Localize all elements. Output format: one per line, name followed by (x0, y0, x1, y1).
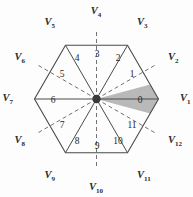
vertex-label-V12: V12 (168, 134, 183, 148)
vertex-label-subscript: 3 (144, 22, 148, 30)
sector-label-7: 7 (60, 120, 65, 130)
vertex-label-V7: V7 (2, 92, 13, 106)
spoke-solid-V11 (97, 99, 128, 153)
spoke-solid-V5 (66, 45, 97, 99)
figure-container: 01234567891011 V1V2V3V4V5V6V7V8V9V10V11V… (0, 0, 193, 197)
center-hub (92, 95, 100, 103)
vertex-label-subscript: 9 (52, 175, 56, 183)
spoke-dashed-V6 (38, 65, 97, 99)
vertex-label-subscript: 11 (144, 175, 151, 183)
sector-label-9: 9 (95, 141, 100, 151)
sector-label-0: 0 (138, 95, 143, 105)
vertex-label-subscript: 2 (175, 57, 179, 65)
sector-label-1: 1 (130, 69, 135, 79)
vertex-label-V9: V9 (44, 169, 55, 183)
vertex-label-V10: V10 (89, 181, 104, 195)
vertex-label-V4: V4 (91, 5, 102, 19)
vertex-label-V3: V3 (137, 16, 148, 30)
spoke-dashed-V8 (38, 99, 97, 133)
vertex-label-V1: V1 (180, 92, 191, 106)
sector-label-5: 5 (60, 69, 65, 79)
vertex-label-V5: V5 (44, 16, 55, 30)
sector-label-11: 11 (127, 120, 136, 130)
sector-label-3: 3 (95, 49, 100, 59)
spoke-solid-V9 (66, 99, 97, 153)
vertex-label-subscript: 12 (175, 140, 183, 148)
spoke-solid-V3 (97, 45, 128, 99)
sector-label-10: 10 (113, 136, 123, 146)
sector-label-8: 8 (75, 136, 80, 146)
hexagon-sector-diagram: 01234567891011 V1V2V3V4V5V6V7V8V9V10V11V… (0, 0, 193, 197)
sector-label-2: 2 (116, 53, 121, 63)
vertex-label-subscript: 6 (22, 57, 26, 65)
center-hub-dot (92, 95, 100, 103)
sector-label-6: 6 (51, 95, 56, 105)
vertex-label-subscript: 7 (10, 98, 14, 106)
vertex-label-subscript: 4 (98, 11, 102, 19)
vertex-label-subscript: 1 (187, 98, 191, 106)
vertex-label-subscript: 5 (52, 22, 56, 30)
vertex-label-subscript: 8 (22, 140, 26, 148)
vertex-label-V11: V11 (137, 169, 151, 183)
vertex-label-V8: V8 (14, 134, 25, 148)
sector-label-4: 4 (75, 53, 80, 63)
vertex-label-V6: V6 (14, 51, 25, 65)
vertex-label-subscript: 10 (96, 187, 104, 195)
vertex-label-V2: V2 (168, 51, 179, 65)
